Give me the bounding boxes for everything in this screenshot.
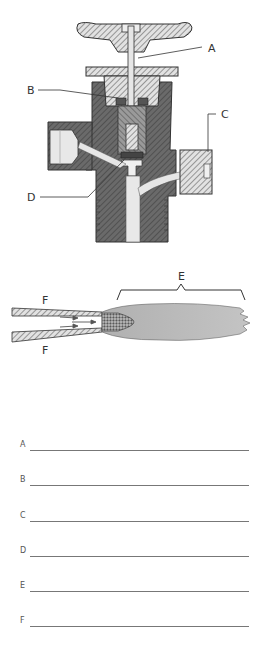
- answer-letter: C: [20, 511, 26, 520]
- label-F-top: F: [42, 294, 48, 307]
- answer-letter: A: [20, 440, 25, 449]
- answer-letter: E: [20, 581, 25, 590]
- answer-blank-F[interactable]: [30, 626, 249, 627]
- valve-illustration: [48, 23, 212, 243]
- label-C: C: [221, 108, 229, 121]
- answer-letter: D: [20, 546, 26, 555]
- label-B: B: [27, 84, 35, 97]
- answer-blank-B[interactable]: [30, 485, 249, 486]
- answer-blank-D[interactable]: [30, 556, 249, 557]
- torch-flame-illustration: [12, 304, 250, 343]
- answer-row-F: F: [20, 616, 252, 630]
- answer-row-E: E: [20, 581, 252, 595]
- answer-row-C: C: [20, 511, 252, 525]
- label-E: E: [178, 270, 185, 283]
- answer-letter: B: [20, 475, 26, 484]
- answer-blank-A[interactable]: [30, 450, 249, 451]
- answer-blank-E[interactable]: [30, 591, 249, 592]
- label-A: A: [208, 42, 216, 55]
- callout-E: E: [117, 270, 245, 300]
- label-D: D: [27, 191, 35, 204]
- answer-letter: F: [20, 616, 25, 625]
- callout-A: A: [138, 42, 216, 58]
- answer-row-D: D: [20, 546, 252, 560]
- label-F-bottom: F: [42, 344, 48, 357]
- answer-row-A: A: [20, 440, 252, 454]
- answer-blank-C[interactable]: [30, 521, 249, 522]
- callout-C: C: [208, 108, 229, 152]
- answer-row-B: B: [20, 475, 252, 489]
